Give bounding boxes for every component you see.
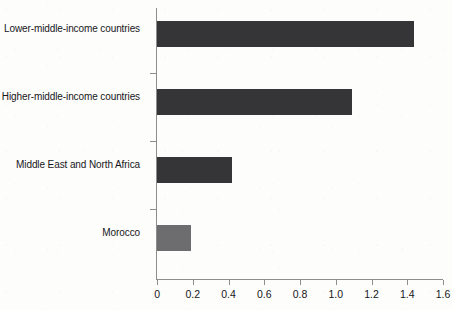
bar-group-3: Morocco [157,212,443,280]
x-axis-tick-6 [372,280,373,285]
category-label-2: Middle East and North Africa [0,159,140,171]
bar-0 [157,21,414,47]
y-axis-tick-0 [150,73,157,74]
plot-area: Lower-middle-income countries Higher-mid… [157,8,443,280]
x-axis-tick-label-4: 0.8 [280,288,320,300]
bar-group-1: Higher-middle-income countries [157,76,443,144]
x-axis-tick-label-2: 0.4 [209,288,249,300]
bar-group-0: Lower-middle-income countries [157,8,443,76]
bar-2 [157,157,232,183]
x-axis-tick-label-5: 1.0 [316,288,356,300]
category-label-1: Higher-middle-income countries [0,91,140,103]
category-label-0: Lower-middle-income countries [0,23,140,35]
x-axis-tick-label-3: 0.6 [244,288,284,300]
x-axis-tick-label-7: 1.4 [387,288,427,300]
x-axis-tick-4 [300,280,301,285]
y-axis-tick-1 [150,141,157,142]
x-axis-tick-label-0: 0 [137,288,177,300]
x-axis-tick-7 [407,280,408,285]
x-axis-tick-2 [229,280,230,285]
x-axis-tick-0 [157,280,158,285]
category-label-3: Morocco [0,227,140,239]
bar-chart: Lower-middle-income countries Higher-mid… [0,0,452,310]
x-axis-tick-1 [193,280,194,285]
bar-1 [157,89,352,115]
bar-group-2: Middle East and North Africa [157,144,443,212]
x-axis-tick-label-8: 1.6 [423,288,452,300]
x-axis-tick-3 [264,280,265,285]
y-axis-tick-2 [150,209,157,210]
x-axis-tick-5 [336,280,337,285]
x-axis-tick-8 [443,280,444,285]
bar-3 [157,225,191,251]
x-axis-tick-label-6: 1.2 [352,288,392,300]
x-axis-tick-label-1: 0.2 [173,288,213,300]
